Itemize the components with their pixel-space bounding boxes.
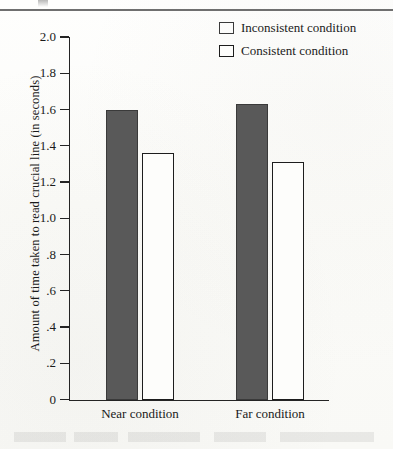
y-axis-line xyxy=(69,37,70,401)
bar-chart: Amount of time taken to read crucial lin… xyxy=(0,0,393,449)
x-axis-line xyxy=(69,400,329,401)
y-tick-2.0: 2.0 xyxy=(60,36,69,37)
y-tick-label: 1.8 xyxy=(40,65,60,81)
legend: Inconsistent condition Consistent condit… xyxy=(219,20,356,59)
y-tick-.4: .4 xyxy=(60,326,69,327)
y-tick-1.4: 1.4 xyxy=(60,145,69,146)
legend-label-consistent: Consistent condition xyxy=(241,43,348,59)
legend-item-inconsistent[interactable]: Inconsistent condition xyxy=(219,20,356,36)
y-tick-.2: .2 xyxy=(60,363,69,364)
x-axis-label-far: Far condition xyxy=(235,406,305,422)
legend-label-inconsistent: Inconsistent condition xyxy=(241,20,356,36)
y-tick-1.2: 1.2 xyxy=(60,181,69,182)
y-tick-label: .6 xyxy=(46,282,60,298)
bar-near-consistent[interactable] xyxy=(142,153,174,400)
y-tick-label: .4 xyxy=(46,319,60,335)
y-tick-.8: .8 xyxy=(60,254,69,255)
y-tick-1.8: 1.8 xyxy=(60,73,69,74)
legend-swatch-filled-icon xyxy=(219,22,234,34)
y-tick-label: 1.2 xyxy=(40,174,60,190)
legend-item-consistent[interactable]: Consistent condition xyxy=(219,43,356,59)
bar-far-consistent[interactable] xyxy=(272,162,304,400)
bar-far-inconsistent[interactable] xyxy=(236,104,268,400)
y-tick-.6: .6 xyxy=(60,290,69,291)
y-tick-label: 2.0 xyxy=(40,29,60,45)
y-tick-label: 1.0 xyxy=(40,210,60,226)
y-tick-1.6: 1.6 xyxy=(60,109,69,110)
y-tick-1.0: 1.0 xyxy=(60,218,69,219)
y-tick-label: 0 xyxy=(50,391,61,407)
legend-swatch-open-icon xyxy=(219,45,234,57)
y-tick-label: .8 xyxy=(46,246,60,262)
bar-near-inconsistent[interactable] xyxy=(106,110,138,400)
y-tick-0: 0 xyxy=(60,399,69,400)
y-tick-label: 1.6 xyxy=(40,101,60,117)
y-tick-label: 1.4 xyxy=(40,137,60,153)
y-tick-label: .2 xyxy=(46,355,60,371)
x-axis-label-near: Near condition xyxy=(101,406,179,422)
